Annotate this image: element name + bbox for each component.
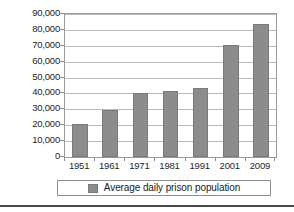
legend-label: Average daily prison population <box>104 183 240 193</box>
gridline <box>65 14 276 15</box>
y-tick-label: 20,000 <box>32 119 60 129</box>
x-axis: 1951196119711981199120012009 <box>64 160 277 176</box>
x-tick-label: 2009 <box>250 161 270 171</box>
gridline <box>65 46 276 47</box>
x-tick-mark <box>274 157 275 161</box>
bar <box>102 110 118 157</box>
legend-swatch-icon <box>88 184 98 193</box>
bar <box>253 24 269 157</box>
x-tick-mark <box>154 157 155 161</box>
y-tick-label: 80,000 <box>32 24 60 34</box>
bar <box>193 88 209 157</box>
bar <box>133 93 149 157</box>
x-tick-label: 1971 <box>129 161 149 171</box>
x-tick-label: 1961 <box>99 161 119 171</box>
y-tick-label: 90,000 <box>32 8 60 18</box>
y-tick-label: 70,000 <box>32 40 60 50</box>
x-tick-mark <box>64 157 65 161</box>
x-tick-label: 2001 <box>220 161 240 171</box>
gridline <box>65 78 276 79</box>
y-tick-label: 10,000 <box>32 135 60 145</box>
plot-area <box>64 13 277 158</box>
y-tick-label: 40,000 <box>32 87 60 97</box>
x-tick-mark <box>215 157 216 161</box>
y-tick-label: 50,000 <box>32 72 60 82</box>
bar <box>163 91 179 157</box>
bar <box>223 45 239 157</box>
y-tick-label: 60,000 <box>32 56 60 66</box>
x-tick-label: 1991 <box>189 161 209 171</box>
y-axis: 010,00020,00030,00040,00050,00060,00070,… <box>0 13 60 158</box>
bar <box>72 124 88 157</box>
x-tick-label: 1951 <box>69 161 89 171</box>
gridline <box>65 30 276 31</box>
bar-chart-figure: 010,00020,00030,00040,00050,00060,00070,… <box>0 0 294 212</box>
x-tick-mark <box>124 157 125 161</box>
chart-legend: Average daily prison population <box>57 180 271 196</box>
gridline <box>65 62 276 63</box>
x-tick-label: 1981 <box>159 161 179 171</box>
page-divider-rule <box>0 205 294 207</box>
y-tick-label: 30,000 <box>32 103 60 113</box>
x-tick-mark <box>245 157 246 161</box>
x-tick-mark <box>94 157 95 161</box>
x-tick-mark <box>185 157 186 161</box>
